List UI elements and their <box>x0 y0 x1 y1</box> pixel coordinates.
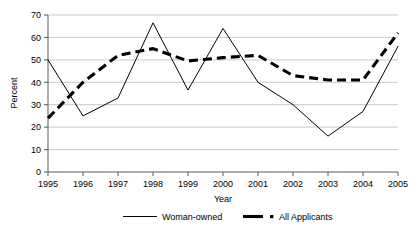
chart-background <box>0 0 417 231</box>
y-axis-title: Percent <box>9 77 19 109</box>
x-tick-label: 2003 <box>318 179 338 189</box>
x-tick-label: 2001 <box>248 179 268 189</box>
x-tick-label: 2002 <box>283 179 303 189</box>
y-tick-label: 40 <box>31 78 41 88</box>
y-tick-label: 10 <box>31 145 41 155</box>
x-tick-label: 2004 <box>353 179 373 189</box>
y-tick-label: 30 <box>31 100 41 110</box>
y-tick-label: 50 <box>31 55 41 65</box>
x-tick-label: 1999 <box>178 179 198 189</box>
x-tick-label: 1995 <box>38 179 58 189</box>
x-tick-label: 2000 <box>213 179 233 189</box>
y-tick-label: 60 <box>31 33 41 43</box>
x-tick-label: 1997 <box>108 179 128 189</box>
line-chart: 70 60 50 40 30 20 10 0 1995 1996 <box>0 0 417 231</box>
x-tick-label: 1996 <box>73 179 93 189</box>
y-tick-label: 0 <box>36 167 41 177</box>
chart-canvas: 70 60 50 40 30 20 10 0 1995 1996 <box>0 0 417 231</box>
legend-swatch-dot-icon <box>270 215 273 218</box>
legend-label-woman-owned: Woman-owned <box>162 212 222 222</box>
x-tick-label: 2005 <box>388 179 408 189</box>
y-tick-label: 70 <box>31 10 41 20</box>
x-axis-title: Year <box>214 194 232 204</box>
x-tick-label: 1998 <box>143 179 163 189</box>
legend-label-all-applicants: All Applicants <box>279 212 333 222</box>
y-tick-label: 20 <box>31 122 41 132</box>
